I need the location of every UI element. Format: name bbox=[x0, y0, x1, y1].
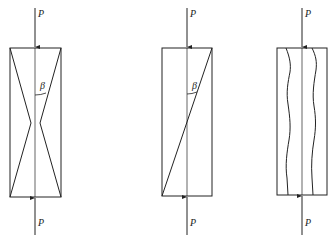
angle-label-a: β bbox=[39, 80, 45, 91]
load-label-top-b: P bbox=[189, 8, 196, 19]
load-label-top-c: P bbox=[304, 8, 311, 19]
angle-arc-a bbox=[35, 93, 46, 95]
specimen-c bbox=[277, 8, 327, 235]
split-crack-left-c bbox=[286, 48, 290, 195]
angle-label-b: β bbox=[191, 80, 197, 91]
specimen-a bbox=[10, 8, 61, 235]
load-label-bottom-b: P bbox=[189, 217, 196, 228]
load-label-bottom-c: P bbox=[304, 217, 311, 228]
split-crack-right-c bbox=[312, 48, 317, 195]
load-label-bottom-a: P bbox=[37, 217, 44, 228]
fracture-left-a bbox=[10, 48, 31, 197]
load-label-top-a: P bbox=[37, 8, 44, 19]
specimen-b bbox=[162, 8, 212, 235]
specimen-a-body bbox=[10, 48, 61, 197]
specimen-failure-diagram: P P β P P β P P bbox=[0, 0, 334, 242]
fracture-right-a bbox=[40, 48, 61, 197]
angle-arc-b bbox=[187, 92, 197, 94]
